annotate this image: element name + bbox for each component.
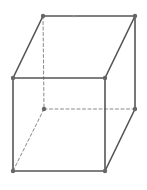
vertex-back_bottom_right: [133, 107, 137, 111]
vertex-back_bottom_left: [42, 107, 46, 111]
cube-diagram: ı: [0, 0, 147, 190]
vertex-front_top_left: [11, 76, 15, 80]
hidden-edge-back_bottom_left-front_bottom_left: [13, 109, 44, 171]
edge-back_bottom_right-front_bottom_right: [105, 109, 135, 171]
edge-back_top_right-front_top_right: [105, 16, 135, 78]
vertex-back_top_left: [41, 14, 45, 18]
faint-edge-mark: ı: [73, 14, 74, 19]
vertex-front_top_right: [103, 76, 107, 80]
edge-back_top_left-front_top_left: [13, 16, 43, 78]
vertex-front_bottom_right: [103, 169, 107, 173]
vertex-front_bottom_left: [11, 169, 15, 173]
hidden-edge-back_top_left-back_bottom_left: [43, 16, 44, 109]
cube-wireframe-figure: [0, 0, 147, 190]
vertex-back_top_right: [133, 14, 137, 18]
